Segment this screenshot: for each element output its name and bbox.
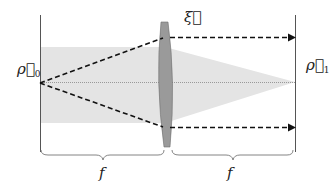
arrowhead-lower	[288, 124, 296, 132]
beam-region-left	[40, 47, 165, 123]
focal-length-right-label: f	[227, 166, 233, 181]
subscript-one: 1	[324, 65, 330, 75]
optics-diagram	[0, 0, 333, 185]
subscript-zero: 0	[35, 69, 41, 79]
rho-symbol: ρ⃗	[306, 56, 324, 74]
lens-plane-label: ξ⃗	[184, 10, 201, 25]
beam-region-right	[165, 47, 295, 123]
rho-symbol: ρ⃗	[17, 60, 35, 78]
brace-left	[41, 150, 164, 160]
output-plane-label: ρ⃗1	[306, 58, 330, 75]
brace-right	[172, 150, 293, 160]
focal-length-left-label: f	[99, 166, 105, 181]
arrowhead-upper	[288, 34, 296, 42]
input-plane-label: ρ⃗0	[17, 62, 41, 79]
